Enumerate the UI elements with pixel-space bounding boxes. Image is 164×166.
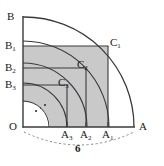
label-c2: C2: [77, 59, 88, 70]
label-c3: C3: [58, 77, 69, 88]
label-b1: B1: [5, 40, 16, 51]
label-c1: C1: [110, 37, 121, 48]
label-a1: A1: [102, 129, 113, 140]
figure-canvas: [0, 0, 164, 166]
label-b2: B2: [5, 62, 16, 73]
dimension-label-6: 6: [75, 143, 81, 154]
label-point-a: A: [139, 121, 147, 132]
ellipsis-dots: [35, 104, 49, 114]
label-a3: A3: [61, 129, 72, 140]
label-origin: O: [9, 121, 17, 132]
geometry-figure: B A O B1 B2 B3 A3 A2 A1 C1 C2 C3 6: [0, 0, 164, 166]
label-a2: A2: [80, 129, 91, 140]
label-b3: B3: [5, 79, 16, 90]
label-point-b: B: [7, 11, 14, 22]
